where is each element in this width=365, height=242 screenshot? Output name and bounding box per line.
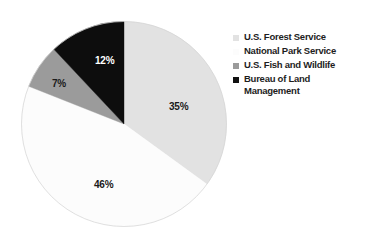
legend-item-us-fish-and-wildlife: U.S. Fish and Wildlife bbox=[233, 59, 361, 72]
slice-label-us-forest-service: 35% bbox=[169, 102, 188, 112]
legend-label-us-fish-and-wildlife: U.S. Fish and Wildlife bbox=[244, 59, 335, 71]
legend-item-bureau-of-land-management: Bureau of Land Management bbox=[233, 73, 361, 96]
pie-chart-figure: 35% 46% 7% 12% U.S. Forest Service Natio… bbox=[0, 0, 365, 242]
chart-legend: U.S. Forest Service National Park Servic… bbox=[233, 31, 361, 97]
slice-label-us-fish-and-wildlife: 7% bbox=[52, 79, 66, 89]
legend-label-bureau-of-land-management: Bureau of Land Management bbox=[244, 73, 310, 96]
slice-label-national-park-service: 46% bbox=[94, 180, 113, 190]
legend-swatch-icon-bureau-of-land-management bbox=[233, 77, 239, 83]
pie-chart-svg bbox=[21, 21, 227, 227]
legend-item-national-park-service: National Park Service bbox=[233, 45, 361, 58]
legend-swatch-icon-national-park-service bbox=[233, 49, 239, 55]
legend-swatch-icon-us-fish-and-wildlife bbox=[233, 63, 239, 69]
legend-swatch-icon-us-forest-service bbox=[233, 35, 239, 41]
pie-slice-group bbox=[22, 22, 227, 227]
legend-item-us-forest-service: U.S. Forest Service bbox=[233, 31, 361, 44]
legend-label-national-park-service: National Park Service bbox=[244, 45, 336, 57]
slice-label-bureau-of-land-management: 12% bbox=[95, 56, 114, 66]
pie-chart-plot-area bbox=[21, 21, 227, 227]
legend-label-us-forest-service: U.S. Forest Service bbox=[244, 31, 326, 43]
